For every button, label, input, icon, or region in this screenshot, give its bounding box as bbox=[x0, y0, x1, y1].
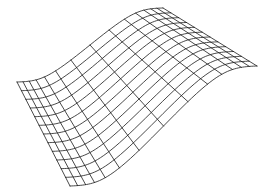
mesh-line-col bbox=[56, 71, 120, 168]
mesh-line-col bbox=[29, 81, 85, 184]
mesh-line-col bbox=[71, 60, 139, 150]
mesh-line-col bbox=[163, 8, 257, 66]
mesh-line-col bbox=[144, 10, 233, 69]
surface-mesh bbox=[17, 8, 257, 186]
mesh-line-col bbox=[44, 77, 105, 178]
mesh-line-col bbox=[36, 80, 94, 183]
mesh-line-col bbox=[90, 45, 164, 126]
wireframe-surface-plot bbox=[0, 0, 269, 187]
mesh-line-col bbox=[151, 9, 242, 68]
mesh-line-col bbox=[23, 82, 78, 186]
